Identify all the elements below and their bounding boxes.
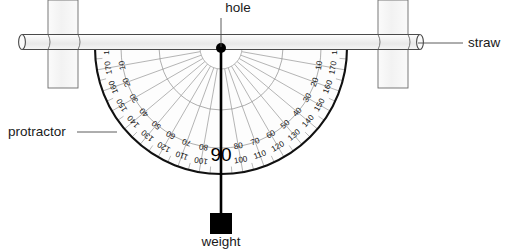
callout-label-protractor: protractor	[8, 124, 66, 139]
diagram-canvas: 1800170101602015030140401305012060110701…	[0, 0, 512, 251]
straw-right-opening	[417, 35, 424, 50]
callout-label-weight: weight	[200, 234, 240, 249]
clinometer-diagram: 1800170101602015030140401305012060110701…	[0, 0, 512, 251]
weight-block	[210, 213, 232, 234]
callout-label-straw: straw	[468, 35, 501, 50]
callout-label-hole: hole	[225, 0, 251, 15]
straw-left-opening	[19, 35, 26, 50]
